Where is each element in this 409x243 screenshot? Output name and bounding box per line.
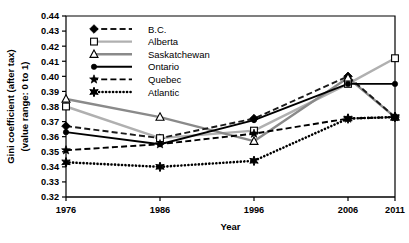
legend-label-alberta: Alberta (148, 36, 179, 47)
data-point-ontario-1996 (251, 117, 256, 122)
series-line-atlantic (66, 117, 395, 167)
y-axis-title-line2: (value range: 0 to 1) (19, 62, 30, 152)
plot-frame (66, 16, 395, 197)
data-point-alberta-1976 (63, 103, 70, 110)
legend-label-atlantic: Atlantic (148, 87, 179, 98)
legend-marker-bc (90, 25, 99, 34)
y-axis-tick-label: 0.39 (41, 87, 59, 97)
data-point-alberta-2011 (392, 55, 399, 62)
legend-label-ontario: Ontario (148, 61, 179, 72)
data-point-bc-1976 (62, 122, 71, 131)
y-axis-tick-label: 0.41 (41, 57, 59, 67)
y-axis-tick-label: 0.37 (41, 117, 59, 127)
y-axis-tick-label: 0.44 (41, 11, 60, 21)
y-axis-tick-label: 0.34 (41, 162, 60, 172)
data-point-ontario-2006 (345, 81, 350, 86)
x-axis-tick-label: 1996 (244, 205, 264, 215)
legend-label-saskatchewan: Saskatchewan (148, 49, 210, 60)
x-axis-tick-label: 2011 (385, 205, 405, 215)
y-axis-tick-label: 0.43 (41, 26, 59, 36)
x-axis-tick-label: 1986 (150, 205, 170, 215)
y-axis-tick-label: 0.33 (41, 177, 59, 187)
y-axis-title-line1: Gini coefficient (after tax) (5, 49, 16, 164)
y-axis-tick-label: 0.36 (41, 132, 59, 142)
gini-coefficient-line-chart: 0.440.430.420.410.400.390.380.370.360.35… (0, 0, 409, 243)
data-point-ontario-2011 (392, 81, 397, 86)
y-axis-tick-label: 0.40 (41, 72, 59, 82)
x-axis-tick-label: 2006 (338, 205, 358, 215)
data-point-ontario-1976 (63, 129, 68, 134)
legend-marker-ontario (91, 64, 96, 69)
legend-marker-alberta (91, 38, 98, 45)
x-axis-title: Year (220, 221, 240, 232)
legend-label-quebec: Quebec (148, 74, 182, 85)
legend-label-bc: B.C. (148, 24, 166, 35)
legend-marker-quebec (90, 75, 99, 83)
x-axis-tick-label: 1976 (56, 205, 76, 215)
y-axis-tick-label: 0.38 (41, 102, 59, 112)
y-axis-tick-label: 0.35 (41, 147, 59, 157)
y-axis-tick-label: 0.32 (41, 192, 59, 202)
y-axis-tick-label: 0.42 (41, 42, 59, 52)
